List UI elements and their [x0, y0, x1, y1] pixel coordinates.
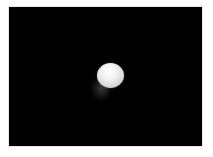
photo-frame: White sphere on black background with fa…	[9, 7, 202, 146]
white-sphere	[97, 63, 124, 88]
